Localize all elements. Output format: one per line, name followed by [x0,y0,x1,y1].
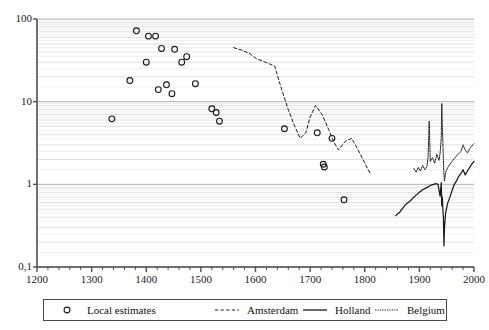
x-tick-label: 2000 [454,274,489,285]
x-tick-label: 1300 [72,274,112,285]
data-point [164,82,170,88]
legend-item-amsterdam: Amsterdam [214,300,298,320]
legend-key-dotted-line-icon [374,305,400,315]
x-tick-label: 1500 [181,274,221,285]
y-tick-label: 1 [2,178,32,189]
x-tick-label: 1400 [126,274,166,285]
data-point [153,33,159,39]
chart-figure: 0,1110100 120013001400150016001700180019… [0,0,489,330]
y-tick-label: 0,1 [2,261,32,272]
data-point [109,116,115,122]
data-point [172,46,178,52]
x-tick-label: 1700 [290,274,330,285]
data-point [159,46,165,52]
legend-item-belgium: Belgium [374,300,445,320]
gridlines-major [37,19,474,267]
chart-legend: Local estimatesAmsterdamHollandBelgium [43,299,447,321]
gridlines-minor [37,21,474,253]
series-line-amsterdam [234,48,371,174]
legend-key-open-circle-icon [54,305,80,315]
series-line-belgium [414,104,474,181]
x-tick-label: 1600 [236,274,276,285]
data-point [155,87,161,93]
data-point [134,28,140,34]
legend-item-holland: Holland [302,300,370,320]
x-tick-label: 1900 [399,274,439,285]
legend-label: Local estimates [87,304,156,316]
series-line-holland [396,161,474,246]
x-tick-label: 1200 [17,274,57,285]
y-tick-label: 10 [2,96,32,107]
data-point [146,33,152,39]
legend-key-solid-line-icon [302,305,328,315]
data-point [127,78,133,84]
legend-label: Amsterdam [247,304,298,316]
data-point [169,91,175,97]
legend-label: Belgium [407,304,445,316]
data-point [193,81,199,87]
y-tick-label: 100 [2,13,32,24]
x-tick-label: 1800 [345,274,385,285]
legend-label: Holland [335,304,370,316]
legend-key-dashed-line-icon [214,305,240,315]
legend-item-local-estimates: Local estimates [54,300,156,320]
